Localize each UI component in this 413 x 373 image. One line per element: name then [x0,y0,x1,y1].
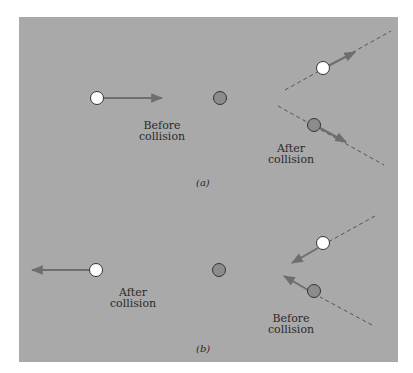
dark-ball-before [308,285,321,298]
incoming-arrow-lower [284,276,308,290]
light-ball-before [317,237,330,250]
light-ball-after [317,62,330,75]
panel-b [32,216,375,325]
light-ball-after [90,264,103,277]
label-line: collision [132,131,192,142]
label-line: collision [261,154,321,165]
caption-a: (a) [196,177,210,188]
light-ball-before [91,92,104,105]
label-before-collision-a: Before collision [132,120,192,142]
dark-ball-target [213,264,226,277]
caption-b: (b) [196,343,210,354]
incoming-arrow-upper [292,248,318,263]
dark-ball-after [308,119,321,132]
dark-ball-target [214,92,227,105]
outgoing-arrow-lower [320,128,346,142]
panel-a [91,31,392,165]
dashed-path-lower [320,297,372,325]
label-line: collision [103,298,163,309]
outgoing-arrow-upper [328,52,355,66]
label-after-collision-a: After collision [261,143,321,165]
label-before-collision-b: Before collision [261,313,321,335]
label-after-collision-b: After collision [103,287,163,309]
dashed-path-upper [328,216,375,242]
label-line: collision [261,324,321,335]
